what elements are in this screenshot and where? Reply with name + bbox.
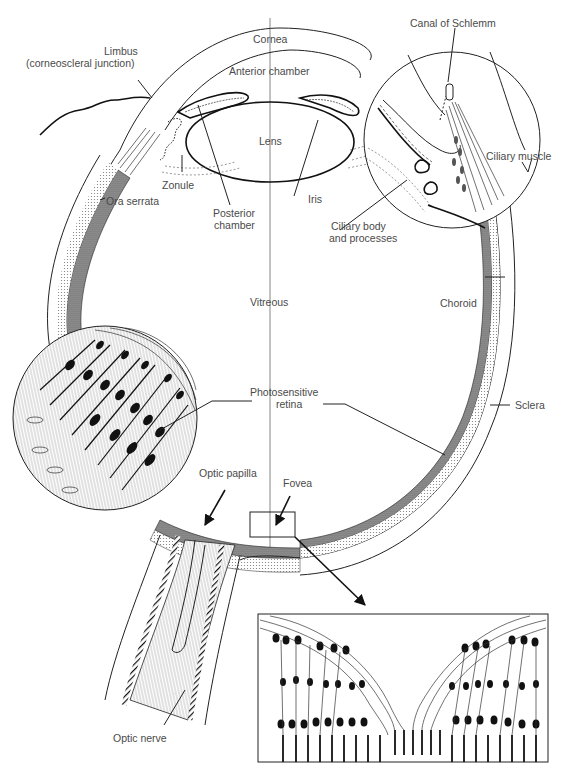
label-iris: Iris bbox=[308, 193, 322, 205]
label-ciliary-body: Ciliary body bbox=[331, 220, 387, 232]
retina-cells-magnified bbox=[13, 326, 197, 510]
label-canal-of-schlemm: Canal of Schlemm bbox=[410, 17, 496, 29]
label-posterior-chamber-2: chamber bbox=[214, 219, 255, 231]
fovea-magnified bbox=[258, 614, 548, 762]
label-ora-serrata: Ora serrata bbox=[106, 195, 159, 207]
label-optic-papilla: Optic papilla bbox=[199, 467, 257, 479]
label-optic-nerve: Optic nerve bbox=[113, 732, 167, 744]
label-sclera: Sclera bbox=[515, 399, 545, 411]
eye-diagram: Cornea Limbus (corneoscleral junction) A… bbox=[0, 0, 569, 777]
fovea-box bbox=[250, 512, 295, 537]
label-anterior-chamber: Anterior chamber bbox=[229, 65, 310, 77]
label-cornea: Cornea bbox=[253, 33, 288, 45]
optic-papilla-arrow bbox=[205, 490, 225, 525]
label-photosensitive-retina: Photosensitive bbox=[250, 386, 318, 398]
label-limbus: Limbus bbox=[104, 45, 138, 57]
label-vitreous: Vitreous bbox=[250, 296, 288, 308]
label-fovea: Fovea bbox=[283, 477, 312, 489]
conjunctiva-line bbox=[40, 97, 150, 135]
label-photosensitive-retina-2: retina bbox=[276, 398, 302, 410]
label-zonule: Zonule bbox=[162, 179, 194, 191]
ciliary-region-magnified bbox=[364, 52, 540, 228]
label-ciliary-body-2: and processes bbox=[329, 232, 397, 244]
label-choroid: Choroid bbox=[440, 297, 477, 309]
label-lens: Lens bbox=[259, 135, 282, 147]
label-limbus-sub: (corneoscleral junction) bbox=[26, 57, 135, 69]
label-posterior-chamber: Posterior bbox=[213, 207, 256, 219]
label-ciliary-muscle: Ciliary muscle bbox=[486, 150, 552, 162]
fovea-arrow bbox=[276, 496, 290, 525]
